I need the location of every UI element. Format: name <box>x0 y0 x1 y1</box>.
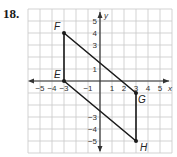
point-g-label: G <box>138 94 146 105</box>
point-h-label: H <box>140 142 148 153</box>
x-axis-left-arrow-icon <box>28 79 34 84</box>
y-tick-label: −4 <box>88 125 98 134</box>
point-f-label: F <box>54 21 61 32</box>
y-axis-down-arrow-icon <box>98 146 103 152</box>
y-tick-label: 1 <box>93 65 98 74</box>
x-tick-label: −1 <box>83 84 93 93</box>
point-h-marker <box>134 139 138 143</box>
y-tick-label: −3 <box>88 113 98 122</box>
x-tick-label: −4 <box>47 84 57 93</box>
x-tick-label: 1 <box>110 84 115 93</box>
x-tick-label: 5 <box>158 84 163 93</box>
y-tick-label: 4 <box>93 29 98 38</box>
y-tick-label: 3 <box>93 41 98 50</box>
y-tick-label: 5 <box>93 17 98 26</box>
x-tick-label: 4 <box>146 84 151 93</box>
y-axis-up-arrow-icon <box>98 12 103 18</box>
x-tick-label: −3 <box>59 84 69 93</box>
point-f-marker <box>62 31 66 35</box>
axes: xy <box>28 11 173 152</box>
x-axis-right-arrow-icon <box>163 79 169 84</box>
y-tick-label: −5 <box>88 137 98 146</box>
point-e-label: E <box>54 69 61 80</box>
coordinate-graph: xy −5−4−3−1123455431−3−4−5 EFGH <box>0 0 177 157</box>
point-e-marker <box>62 79 66 83</box>
y-axis-label: y <box>103 11 109 20</box>
x-tick-label: −5 <box>35 84 45 93</box>
